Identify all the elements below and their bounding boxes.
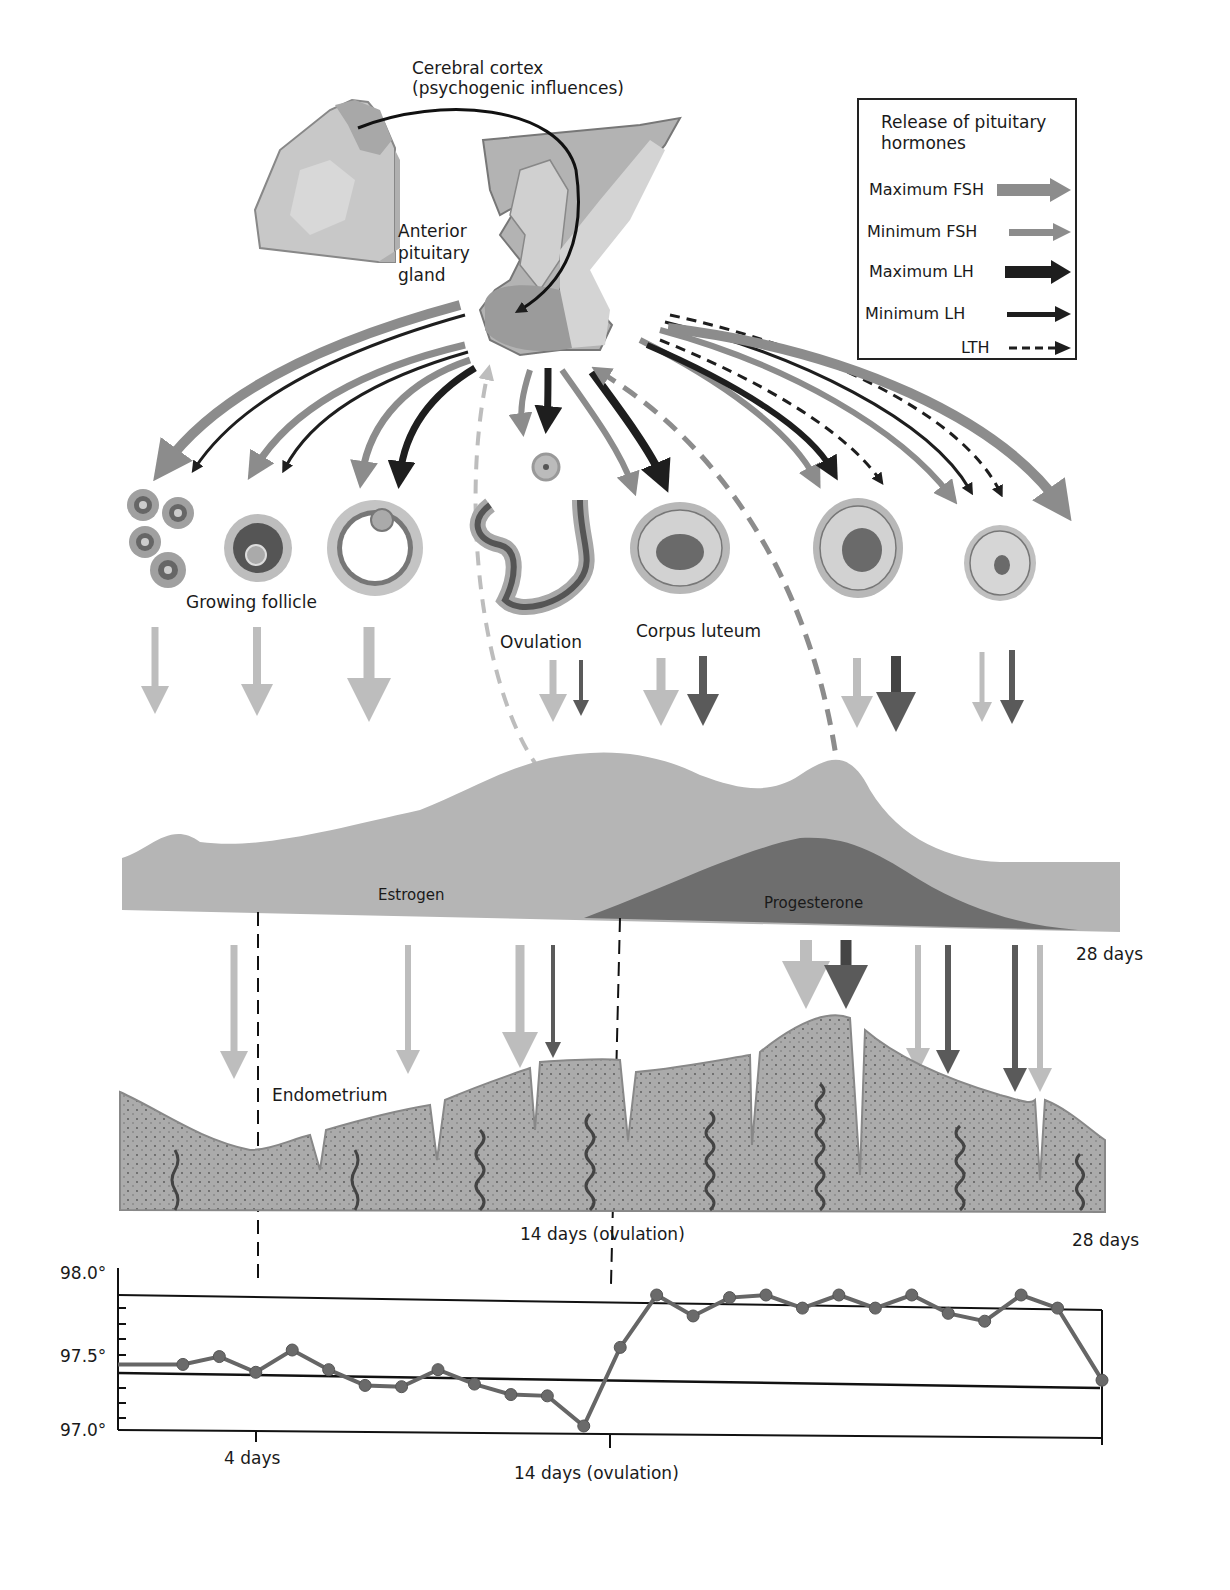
thin-gray-arrow-icon	[995, 218, 1075, 246]
temperature-data-point	[979, 1315, 991, 1327]
ovulation-14-days-label: 14 days (ovulation)	[520, 1224, 685, 1244]
ovarian-hormone-arrows	[155, 627, 1012, 712]
temperature-data-point	[250, 1366, 262, 1378]
pituitary-label-line1: Anterior	[398, 220, 470, 242]
pituitary-label: Anterior pituitary gland	[398, 220, 470, 286]
y-tick-98: 98.0°	[60, 1263, 106, 1283]
temperature-data-point	[432, 1364, 444, 1376]
temperature-data-point	[578, 1420, 590, 1432]
temperature-data-point	[177, 1358, 189, 1370]
temperature-data-point	[687, 1310, 699, 1322]
endometrium-illustration	[120, 1015, 1105, 1212]
corpus-luteum-stages	[630, 498, 1036, 601]
temperature-data-point	[614, 1341, 626, 1353]
temperature-data-point	[541, 1390, 553, 1402]
legend-label: Maximum FSH	[869, 180, 984, 199]
thick-black-arrow-icon	[995, 258, 1075, 286]
28-days-label-mid: 28 days	[1072, 1230, 1139, 1250]
corpus-luteum-label: Corpus luteum	[636, 621, 761, 641]
basal-temperature-chart	[118, 1268, 1108, 1448]
x-tick-14-days: 14 days (ovulation)	[514, 1463, 679, 1483]
endometrium-arrows	[234, 940, 1040, 1080]
temperature-data-point	[760, 1289, 772, 1301]
legend-title-line1: Release of pituitary	[881, 112, 1046, 133]
28-days-label-top: 28 days	[1076, 944, 1143, 964]
temperature-data-point	[468, 1378, 480, 1390]
legend-label: Minimum FSH	[867, 222, 977, 241]
legend-box: Release of pituitary hormones Maximum FS…	[857, 98, 1077, 360]
legend-label: Minimum LH	[865, 304, 965, 323]
growing-follicle-label: Growing follicle	[186, 592, 317, 612]
legend-item-max-lh: Maximum LH	[865, 258, 1075, 286]
temperature-data-point	[286, 1344, 298, 1356]
x-tick-4-days: 4 days	[224, 1448, 280, 1468]
temperature-data-point	[1096, 1374, 1108, 1386]
temperature-data-point	[796, 1302, 808, 1314]
cortex-label-line2: (psychogenic influences)	[412, 78, 624, 98]
temperature-data-point	[942, 1307, 954, 1319]
temperature-data-point	[906, 1289, 918, 1301]
legend-item-min-lh: Minimum LH	[865, 300, 1075, 328]
y-tick-97: 97.0°	[60, 1420, 106, 1440]
pituitary-label-line2: pituitary	[398, 242, 470, 264]
temperature-data-point	[651, 1289, 663, 1301]
pituitary-gland-illustration	[480, 118, 680, 355]
thick-gray-arrow-icon	[995, 176, 1075, 204]
progesterone-label: Progesterone	[764, 894, 863, 912]
temperature-data-point	[213, 1351, 225, 1363]
legend-title-line2: hormones	[881, 133, 1046, 154]
cortex-label-line1: Cerebral cortex	[412, 58, 624, 78]
estrogen-label: Estrogen	[378, 886, 444, 904]
temperature-data-point	[396, 1381, 408, 1393]
temperature-data-point	[359, 1379, 371, 1391]
pituitary-label-line3: gland	[398, 264, 470, 286]
cortex-label: Cerebral cortex (psychogenic influences)	[412, 58, 624, 99]
temperature-data-point	[869, 1302, 881, 1314]
ovulation-label: Ovulation	[500, 632, 582, 652]
legend-label: Maximum LH	[869, 262, 974, 281]
legend-item-max-fsh: Maximum FSH	[865, 176, 1075, 204]
legend-item-min-fsh: Minimum FSH	[865, 218, 1075, 246]
temperature-data-point	[323, 1364, 335, 1376]
temperature-data-point	[1052, 1302, 1064, 1314]
legend-item-lth: LTH	[865, 334, 1075, 362]
temperature-data-point	[1015, 1289, 1027, 1301]
ovarian-follicles	[127, 454, 587, 607]
legend-title: Release of pituitary hormones	[881, 112, 1046, 155]
y-tick-97-5: 97.5°	[60, 1346, 106, 1366]
dashed-black-arrow-icon	[995, 334, 1075, 362]
temperature-data-point	[833, 1289, 845, 1301]
legend-label: LTH	[961, 338, 990, 357]
cerebral-cortex-illustration	[255, 100, 400, 262]
temperature-data-point	[505, 1389, 517, 1401]
temperature-data-point	[724, 1292, 736, 1304]
endometrium-label: Endometrium	[272, 1085, 387, 1105]
thin-black-arrow-icon	[995, 300, 1075, 328]
